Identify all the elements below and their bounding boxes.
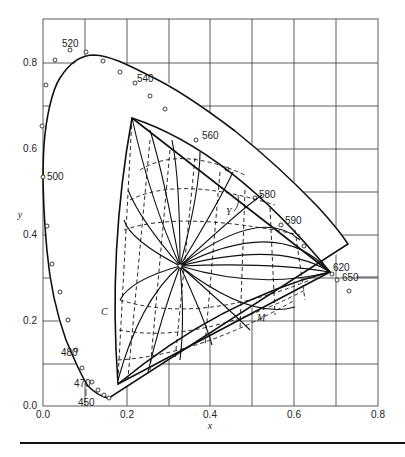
svg-text:0.4: 0.4 bbox=[23, 229, 37, 240]
x-axis-label: x bbox=[207, 420, 213, 431]
chromaticity-diagram: 0.0 0.2 0.4 0.6 0.8 x 0.0 0.2 0.4 0.6 0.… bbox=[0, 0, 405, 457]
y-axis-ticks: 0.0 0.2 0.4 0.6 0.8 bbox=[23, 57, 37, 411]
svg-text:540: 540 bbox=[137, 73, 154, 84]
svg-text:500: 500 bbox=[47, 171, 64, 182]
svg-text:470: 470 bbox=[74, 378, 91, 389]
svg-text:520: 520 bbox=[62, 38, 79, 49]
svg-text:560: 560 bbox=[202, 130, 219, 141]
x-axis-ticks: 0.0 0.2 0.4 0.6 0.8 bbox=[36, 409, 385, 420]
svg-text:580: 580 bbox=[259, 189, 276, 200]
cyan-label: C bbox=[101, 306, 108, 317]
svg-text:0.0: 0.0 bbox=[23, 400, 37, 411]
white-point bbox=[178, 264, 182, 268]
svg-text:480: 480 bbox=[61, 347, 78, 358]
svg-text:0.2: 0.2 bbox=[120, 409, 134, 420]
svg-text:0.8: 0.8 bbox=[23, 57, 37, 68]
svg-text:650: 650 bbox=[342, 272, 359, 283]
svg-text:450: 450 bbox=[78, 397, 95, 408]
svg-text:0.2: 0.2 bbox=[23, 315, 37, 326]
y-axis-label: y bbox=[17, 209, 23, 220]
svg-text:0.8: 0.8 bbox=[371, 409, 385, 420]
svg-text:0.6: 0.6 bbox=[23, 143, 37, 154]
magenta-label: M bbox=[256, 312, 266, 323]
svg-text:0.6: 0.6 bbox=[287, 409, 301, 420]
svg-text:0.0: 0.0 bbox=[36, 409, 50, 420]
svg-text:0.4: 0.4 bbox=[203, 409, 217, 420]
svg-text:590: 590 bbox=[285, 215, 302, 226]
